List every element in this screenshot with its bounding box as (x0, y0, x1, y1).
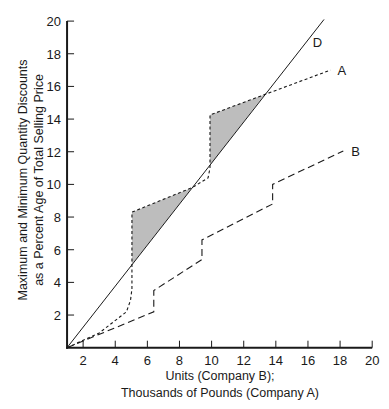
x-tick-label: 8 (176, 353, 183, 368)
y-ticks: 2468101214161820 (47, 14, 74, 323)
y-tick-label: 12 (47, 145, 61, 160)
series-lines (67, 19, 343, 347)
y-axis-label-line-1: Maximum and Minimum Quantity Discounts (16, 59, 30, 300)
x-ticks: 2468101214161820 (80, 341, 380, 368)
x-axis-label-line-2: Thousands of Pounds (Company A) (121, 386, 319, 400)
y-tick-label: 6 (54, 243, 61, 258)
y-tick-label: 18 (47, 47, 61, 62)
y-axis-label-line-2: as a Percent Age of Total Selling Price (32, 74, 46, 286)
y-tick-label: 2 (54, 308, 61, 323)
x-axis-label-line-1: Units (Company B); (165, 369, 274, 383)
y-tick-label: 20 (47, 14, 61, 29)
series-label-B: B (351, 144, 360, 159)
x-tick-label: 14 (269, 353, 283, 368)
x-tick-label: 18 (333, 353, 347, 368)
series-line-A (67, 70, 330, 348)
series-label-A: A (337, 63, 346, 78)
axes (66, 21, 372, 349)
y-tick-label: 8 (54, 210, 61, 225)
x-tick-label: 16 (301, 353, 315, 368)
x-tick-label: 6 (144, 353, 151, 368)
x-tick-label: 20 (365, 353, 379, 368)
series-label-D: D (313, 35, 322, 50)
y-tick-label: 10 (47, 177, 61, 192)
series-line-B (67, 151, 343, 348)
x-tick-label: 4 (112, 353, 119, 368)
chart: 2468101214161820 2468101214161820 DAB Ma… (0, 0, 389, 409)
series-labels: DAB (313, 35, 360, 159)
y-tick-label: 4 (54, 275, 61, 290)
y-axis-label: Maximum and Minimum Quantity Discounts a… (16, 59, 46, 300)
x-tick-label: 12 (236, 353, 250, 368)
y-tick-label: 14 (47, 112, 61, 127)
x-axis-label: Units (Company B); Thousands of Pounds (… (121, 369, 319, 400)
x-tick-label: 10 (204, 353, 218, 368)
series-line-D (67, 19, 324, 347)
y-tick-label: 16 (47, 79, 61, 94)
x-tick-label: 2 (80, 353, 87, 368)
